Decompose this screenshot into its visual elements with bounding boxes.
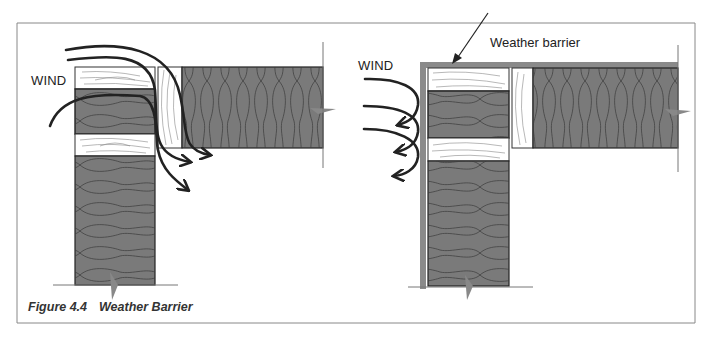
- figure-caption: Figure 4.4Weather Barrier: [28, 300, 193, 314]
- left-panel-assembly: [53, 42, 336, 300]
- weather-barrier-label: Weather barrier: [490, 35, 580, 50]
- right-panel-assembly: [408, 45, 691, 300]
- wind-arrows-right: [364, 79, 418, 176]
- figure-number: Figure 4.4: [28, 300, 87, 314]
- barrier-callout-arrow: [452, 13, 488, 64]
- figure-title: Weather Barrier: [99, 300, 193, 314]
- weather-barrier-diagram: [0, 0, 710, 338]
- wind-label-right: WIND: [358, 58, 393, 73]
- wind-label-left: WIND: [31, 73, 66, 88]
